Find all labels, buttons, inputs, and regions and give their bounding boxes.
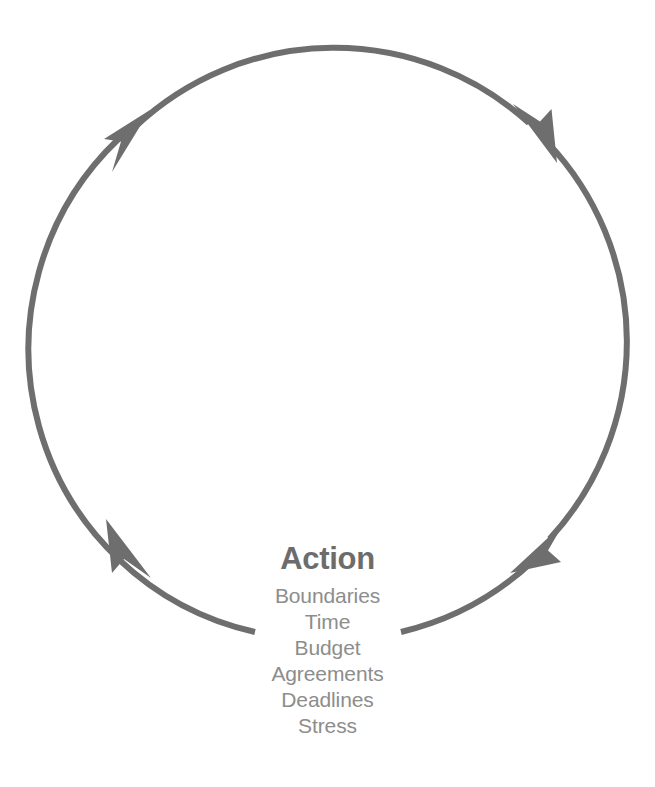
arrowhead-top-left-icon <box>104 110 150 172</box>
cycle-item: Agreements <box>0 661 655 687</box>
arc-segment-top <box>136 48 529 126</box>
arc-segment-right <box>548 143 627 539</box>
cycle-item-list: Boundaries Time Budget Agreements Deadli… <box>0 583 655 739</box>
cycle-title: Action <box>0 543 655 574</box>
cycle-item: Budget <box>0 635 655 661</box>
cycle-item: Time <box>0 609 655 635</box>
cycle-label-block: Action Boundaries Time Budget Agreements… <box>0 543 655 739</box>
cycle-item: Stress <box>0 713 655 739</box>
cycle-item: Boundaries <box>0 583 655 609</box>
cycle-item: Deadlines <box>0 687 655 713</box>
cycle-diagram: Action Boundaries Time Budget Agreements… <box>0 0 655 787</box>
